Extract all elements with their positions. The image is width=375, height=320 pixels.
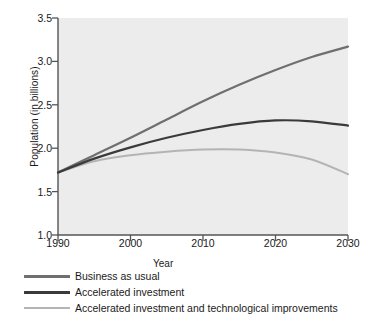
y-tick-label: 2.0 [26,143,52,153]
x-tick-label: 1990 [46,238,69,249]
legend-item[interactable]: Business as usual [24,268,372,284]
legend-line-swatch [24,307,70,310]
legend-line-swatch [24,291,70,294]
y-axis-tick-labels: 1.01.52.02.53.03.5 [26,0,52,218]
x-axis-tick-labels: 19902000201020202030 [0,238,375,258]
plot-area-wrapper: Population (in billions) 1.01.52.02.53.0… [0,0,375,258]
y-tick-label: 3.5 [26,13,52,23]
y-tick-label: 1.5 [26,187,52,197]
legend-line-swatch [24,275,70,278]
legend-label: Business as usual [75,270,160,282]
y-tick-label: 2.5 [26,100,52,110]
legend-label: Accelerated investment [75,286,184,298]
population-projection-chart: Population (in billions) 1.01.52.02.53.0… [0,0,375,320]
legend-label: Accelerated investment and technological… [75,302,338,314]
chart-legend: Business as usualAccelerated investmentA… [24,268,372,316]
legend-item[interactable]: Accelerated investment and technological… [24,300,372,316]
x-tick-label: 2010 [191,238,214,249]
x-tick-label: 2020 [264,238,287,249]
y-tick-label: 3.0 [26,56,52,66]
plot-background [58,18,348,235]
x-tick-label: 2000 [119,238,142,249]
legend-item[interactable]: Accelerated investment [24,284,372,300]
plot-canvas [0,0,375,258]
x-tick-label: 2030 [336,238,359,249]
